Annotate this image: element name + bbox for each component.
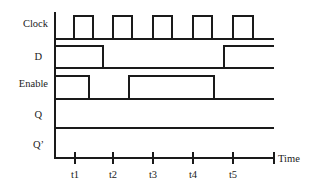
tick-label-t3: t3	[149, 169, 157, 180]
waveforms	[55, 16, 274, 158]
waveform-clock	[55, 16, 274, 39]
tick-label-t5: t5	[229, 169, 237, 180]
tick-label-t2: t2	[109, 169, 117, 180]
time-ticks: t1t2t3t4t5	[71, 152, 237, 180]
waveform-enable	[55, 76, 274, 99]
signal-label-clock: Clock	[23, 18, 49, 29]
signal-label-d: D	[34, 51, 42, 62]
timing-diagram: Clock D Enable Q Q’ t1t2t3t4t5 Time	[0, 0, 316, 189]
signal-label-q-prime: Q’	[33, 139, 44, 150]
waveform-d	[55, 46, 274, 68]
tick-label-t1: t1	[71, 169, 79, 180]
time-axis-label: Time	[278, 153, 300, 164]
tick-label-t4: t4	[189, 169, 198, 180]
signal-label-enable: Enable	[19, 78, 48, 89]
signal-label-q: Q	[34, 109, 42, 120]
